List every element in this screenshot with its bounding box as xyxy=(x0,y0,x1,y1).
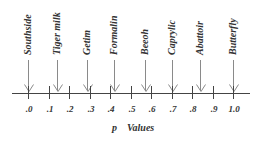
axis-tick xyxy=(213,86,214,99)
x-axis-title-p: p xyxy=(112,122,117,133)
axis-tick xyxy=(69,86,70,99)
axis-tick xyxy=(49,86,50,99)
tick-label: .3 xyxy=(88,104,95,114)
tick-label: .6 xyxy=(149,104,156,114)
tick-label: .4 xyxy=(108,104,115,114)
marker-label: Getim xyxy=(82,30,92,55)
arrow-down-icon xyxy=(196,84,206,92)
x-axis-title: pValues xyxy=(112,122,164,133)
marker-label: Beeoh xyxy=(140,29,150,55)
tick-label: .5 xyxy=(129,104,136,114)
marker-label: Abattoir xyxy=(195,21,205,55)
tick-label: .1 xyxy=(47,104,54,114)
axis-tick xyxy=(110,86,111,99)
arrow-down-icon xyxy=(53,84,63,92)
x-axis-title-values: Values xyxy=(127,122,154,133)
axis-tick xyxy=(151,86,152,99)
axis-tick xyxy=(131,86,132,99)
tick-label: .0 xyxy=(26,104,33,114)
tick-label: 1.0 xyxy=(228,104,239,114)
arrow-down-icon xyxy=(141,84,151,92)
axis-tick xyxy=(90,86,91,99)
tick-label: .9 xyxy=(211,104,218,114)
tick-label: .8 xyxy=(190,104,197,114)
arrow-down-icon xyxy=(83,84,93,92)
axis-tick xyxy=(233,86,234,99)
marker-label: Tiger milk xyxy=(52,12,62,55)
arrow-down-icon xyxy=(110,84,120,92)
marker-label: Butterfly xyxy=(228,18,238,55)
tick-label: .2 xyxy=(67,104,74,114)
axis-tick xyxy=(192,86,193,99)
axis-tick xyxy=(172,86,173,99)
p-values-number-line: SouthsideTiger milkGetimFormalinBeeohCap… xyxy=(0,0,260,142)
axis-tick xyxy=(28,86,29,99)
tick-label: .7 xyxy=(170,104,177,114)
marker-label: Caprylic xyxy=(167,20,177,55)
marker-label: Formalin xyxy=(109,16,119,55)
marker-label: Southside xyxy=(23,14,33,55)
